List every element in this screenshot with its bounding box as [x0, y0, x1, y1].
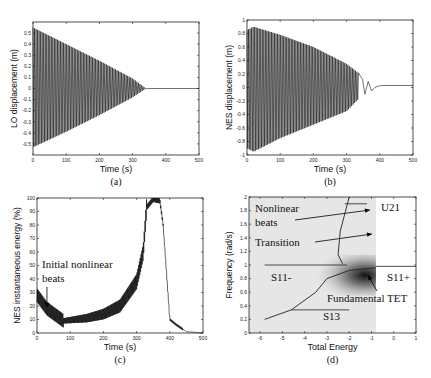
y-tick-label: 60	[29, 249, 35, 255]
annotation-s11-minus: S11-	[271, 271, 292, 283]
y-tick-label: 1	[244, 262, 247, 268]
y-tick-label: 100	[27, 195, 36, 201]
y-tick-label: 0.2	[24, 63, 31, 69]
annotation-nonlinear-beats-line2: beats	[255, 216, 278, 228]
heatmap-hot-region	[302, 255, 375, 296]
y-tick-label: -0.5	[22, 141, 31, 147]
chart-d-plot: -6-5-4-3-2-10100.20.40.60.811.21.41.61.8…	[215, 190, 431, 378]
x-tick-label: 500	[195, 157, 204, 163]
y-tick-label: 20	[29, 303, 35, 309]
x-tick-label: 400	[166, 335, 175, 341]
data-series	[247, 27, 413, 151]
x-tick-label: 200	[309, 157, 318, 163]
x-tick-label: 0	[392, 335, 395, 341]
panel-caption: (d)	[327, 354, 339, 366]
annotation-transition: Transition	[255, 236, 300, 248]
x-tick-label: 500	[199, 335, 208, 341]
y-tick-label: 0.4	[240, 303, 247, 309]
x-axis-label: Total Energy	[307, 342, 358, 352]
x-tick-label: 300	[342, 157, 351, 163]
x-tick-label: 200	[99, 335, 108, 341]
y-tick-label: 0	[242, 84, 245, 90]
x-tick-label: 500	[409, 157, 418, 163]
y-tick-label: 0.4	[238, 57, 245, 63]
x-tick-label: 0	[246, 157, 249, 163]
y-tick-label: -0.8	[236, 138, 245, 144]
y-tick-label: -0.4	[236, 111, 245, 117]
y-tick-label: 0.8	[238, 30, 245, 36]
y-axis-label: NES instantaneous energy (%)	[12, 207, 22, 324]
y-tick-label: 0	[32, 330, 35, 336]
y-tick-label: 1.2	[240, 248, 247, 254]
y-axis-label: LO displacement (m)	[9, 49, 19, 128]
x-tick-label: 400	[376, 157, 385, 163]
y-tick-label: 1	[242, 17, 245, 23]
y-tick-label: 0.3	[24, 52, 31, 58]
panel-caption: (a)	[110, 176, 121, 188]
chart-c-plot: 01002003004005000102030405060708090100Ti…	[0, 190, 215, 378]
panel-b-nes-displacement: 0100200300400500-1-0.8-0.6-0.4-0.200.20.…	[215, 0, 431, 190]
y-tick-label: 0.5	[24, 30, 31, 36]
annotation-s13: S13	[323, 310, 341, 322]
x-tick-label: 300	[128, 157, 137, 163]
x-tick-label: -6	[258, 335, 263, 341]
y-tick-label: -1	[241, 152, 246, 158]
x-axis-label: Time (s)	[100, 164, 133, 174]
chart-b-plot: 0100200300400500-1-0.8-0.6-0.4-0.200.20.…	[215, 0, 431, 190]
panel-a-lo-displacement: 0100200300400500-0.5-0.4-0.3-0.2-0.100.1…	[0, 0, 215, 190]
x-axis-label: Time (s)	[314, 164, 347, 174]
annotation-initial-nonlinear-beats-line2: beats	[42, 272, 65, 284]
x-tick-label: -1	[369, 335, 374, 341]
y-tick-label: -0.6	[236, 125, 245, 131]
y-tick-label: 0	[28, 85, 31, 91]
x-axis-label: Time (s)	[104, 342, 137, 352]
y-tick-label: 1.6	[240, 221, 247, 227]
y-tick-label: 50	[29, 262, 35, 268]
y-tick-label: -0.4	[22, 130, 31, 136]
data-series	[33, 28, 199, 147]
y-tick-label: 90	[29, 208, 35, 214]
x-tick-label: 300	[132, 335, 141, 341]
panel-d-frequency-energy: -6-5-4-3-2-10100.20.40.60.811.21.41.61.8…	[215, 190, 431, 378]
panel-c-nes-energy: 01002003004005000102030405060708090100Ti…	[0, 190, 215, 378]
y-tick-label: 1.4	[240, 235, 247, 241]
y-axis-label: Frequency (rad/s)	[224, 231, 234, 298]
y-tick-label: 0	[244, 330, 247, 336]
y-tick-label: 40	[29, 276, 35, 282]
y-tick-label: 0.8	[240, 275, 247, 281]
y-tick-label: -0.2	[22, 107, 31, 113]
y-tick-label: -0.3	[22, 119, 31, 125]
y-tick-label: 30	[29, 289, 35, 295]
y-tick-label: 2	[244, 194, 247, 200]
x-tick-label: 1	[415, 335, 418, 341]
y-tick-label: 0.4	[24, 41, 31, 47]
y-tick-label: 70	[29, 235, 35, 241]
panel-caption: (c)	[114, 354, 125, 366]
y-tick-label: -0.2	[236, 98, 245, 104]
x-tick-label: -3	[325, 335, 330, 341]
y-tick-label: 0.6	[240, 289, 247, 295]
y-axis-label: NES displacement (m)	[224, 45, 234, 130]
x-tick-label: -4	[302, 335, 307, 341]
annotation-fundamental-tet: Fundamental TET	[327, 292, 407, 304]
annotation-nonlinear-beats: Nonlinear	[255, 202, 299, 214]
x-tick-label: 100	[62, 157, 71, 163]
y-tick-label: 10	[29, 316, 35, 322]
annotation-s11-plus: S11+	[387, 271, 410, 283]
x-tick-label: 0	[32, 157, 35, 163]
y-tick-label: 80	[29, 222, 35, 228]
annotation-initial-nonlinear-beats: Initial nonlinear	[42, 258, 113, 270]
panel-caption: (b)	[324, 176, 336, 188]
chart-a-plot: 0100200300400500-0.5-0.4-0.3-0.2-0.100.1…	[0, 0, 215, 190]
x-tick-label: 0	[36, 335, 39, 341]
y-tick-label: 1.8	[240, 207, 247, 213]
y-tick-label: 0.2	[240, 316, 247, 322]
y-tick-label: 0.6	[238, 44, 245, 50]
x-tick-label: 100	[276, 157, 285, 163]
x-tick-label: -5	[280, 335, 285, 341]
annotation-u21: U21	[381, 201, 400, 213]
x-tick-label: 100	[66, 335, 75, 341]
x-tick-label: -2	[347, 335, 352, 341]
x-tick-label: 400	[162, 157, 171, 163]
y-tick-label: 0.1	[24, 74, 31, 80]
